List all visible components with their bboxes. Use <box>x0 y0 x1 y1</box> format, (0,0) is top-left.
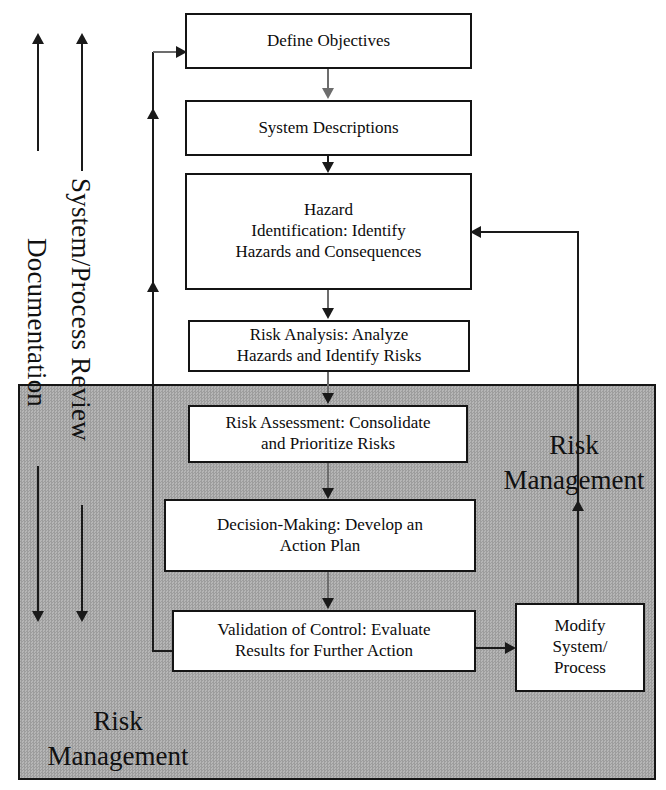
risk-management-flowchart: Documentation System/Process Review Defi… <box>0 0 666 790</box>
edge-analysis-to-assessment-line <box>327 372 329 395</box>
documentation-down-arrowhead <box>32 611 44 622</box>
modify-line-2: System/ <box>553 637 608 656</box>
node-decision-making[interactable]: Decision-Making: Develop an Action Plan <box>164 499 476 572</box>
node-decision-making-label: Decision-Making: Develop an Action Plan <box>172 515 468 556</box>
edge-system-to-hazard-arrowhead <box>322 162 334 173</box>
edge-assessment-to-decision-arrowhead <box>322 488 334 499</box>
decision-making-line-1: Decision-Making: Develop an <box>217 515 423 534</box>
system-process-review-down-line <box>81 505 83 614</box>
rm-bottom-line-2: Management <box>48 741 189 771</box>
validation-line-2: Results for Further Action <box>235 641 413 660</box>
risk-analysis-line-2: Hazards and Identify Risks <box>237 346 422 365</box>
node-risk-analysis[interactable]: Risk Analysis: Analyze Hazards and Ident… <box>188 320 470 372</box>
left-feedback-trunk <box>152 52 154 652</box>
edge-define-to-system-arrowhead <box>322 88 334 99</box>
edge-decision-to-validation-line <box>327 572 329 600</box>
node-define-objectives[interactable]: Define Objectives <box>185 13 472 69</box>
edge-hazard-to-analysis-line <box>327 290 329 310</box>
system-process-review-up-arrowhead <box>76 33 88 44</box>
edge-validation-to-modify-arrowhead <box>505 642 516 654</box>
node-modify-system-process[interactable]: Modify System/ Process <box>515 603 645 692</box>
rm-right-line-1: Risk <box>549 430 599 460</box>
left-feedback-stub <box>152 650 174 652</box>
region-caption-risk-management-right: Risk Management <box>488 428 660 497</box>
right-feedback-trunk <box>577 232 579 604</box>
rm-right-line-2: Management <box>504 465 645 495</box>
hazard-line-1: Hazard <box>304 200 353 219</box>
node-hazard-identification-label: Hazard Identification: Identify Hazards … <box>193 200 464 262</box>
edge-analysis-to-assessment-arrowhead <box>322 393 334 404</box>
right-feedback-arrowhead-mid <box>572 500 584 511</box>
documentation-up-line <box>37 43 39 151</box>
rm-bottom-line-1: Risk <box>93 706 143 736</box>
node-define-objectives-label: Define Objectives <box>193 31 464 52</box>
left-feedback-arrowhead-risk-analysis <box>147 281 159 292</box>
risk-analysis-line-1: Risk Analysis: Analyze <box>250 325 409 344</box>
node-validation-of-control[interactable]: Validation of Control: Evaluate Results … <box>172 610 476 672</box>
modify-line-3: Process <box>554 658 606 677</box>
region-caption-risk-management-bottom: Risk Management <box>28 704 208 773</box>
side-label-system-process-review: System/Process Review <box>65 178 96 441</box>
documentation-down-line <box>37 466 39 614</box>
hazard-line-2: Identification: Identify <box>251 221 405 240</box>
decision-making-line-2: Action Plan <box>280 536 361 555</box>
validation-line-1: Validation of Control: Evaluate <box>218 620 431 639</box>
risk-assessment-line-1: Risk Assessment: Consolidate <box>226 413 431 432</box>
hazard-line-3: Hazards and Consequences <box>236 242 422 261</box>
node-modify-system-process-label: Modify System/ Process <box>523 616 637 678</box>
documentation-up-arrowhead <box>32 33 44 44</box>
left-feedback-arrowhead-define-objectives <box>176 46 187 58</box>
node-hazard-identification[interactable]: Hazard Identification: Identify Hazards … <box>185 173 472 290</box>
side-label-documentation: Documentation <box>21 238 52 407</box>
edge-hazard-to-analysis-arrowhead <box>322 308 334 319</box>
edge-assessment-to-decision-line <box>327 463 329 490</box>
modify-line-1: Modify <box>555 616 606 635</box>
node-system-descriptions-label: System Descriptions <box>193 118 464 139</box>
node-system-descriptions[interactable]: System Descriptions <box>185 100 472 156</box>
node-risk-analysis-label: Risk Analysis: Analyze Hazards and Ident… <box>196 325 462 366</box>
left-feedback-arrowhead-system-descriptions <box>147 108 159 119</box>
system-process-review-down-arrowhead <box>76 611 88 622</box>
node-risk-assessment-label: Risk Assessment: Consolidate and Priorit… <box>196 413 460 454</box>
system-process-review-up-line <box>81 43 83 171</box>
node-validation-of-control-label: Validation of Control: Evaluate Results … <box>180 620 468 661</box>
right-feedback-elbow-hazard <box>475 231 579 233</box>
risk-assessment-line-2: and Prioritize Risks <box>261 434 395 453</box>
right-feedback-arrowhead-hazard <box>470 226 481 238</box>
edge-define-to-system-line <box>327 69 329 89</box>
node-risk-assessment[interactable]: Risk Assessment: Consolidate and Priorit… <box>188 405 468 463</box>
edge-decision-to-validation-arrowhead <box>322 598 334 609</box>
